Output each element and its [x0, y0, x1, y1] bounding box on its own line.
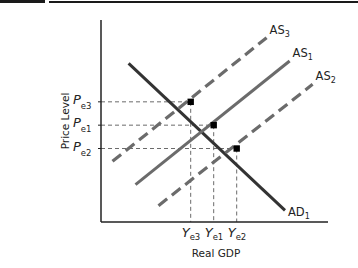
curve-label-as3: AS3	[270, 23, 290, 39]
equilibrium-point-e1	[211, 122, 217, 128]
curve-label-as1: AS1	[293, 46, 313, 62]
equilibrium-point-e2	[234, 145, 240, 151]
x-axis-title: Real GDP	[192, 247, 241, 259]
y-tick-label-e3: Pe3	[73, 92, 91, 111]
x-tick-label-e2: Ye2	[228, 225, 247, 242]
curve-label-as2: AS2	[316, 69, 336, 85]
x-tick-label-e1: Ye1	[205, 225, 224, 242]
y-axis-title: Price Level	[59, 93, 71, 150]
x-tick-label-e3: Ye3	[182, 225, 201, 242]
equilibrium-point-e3	[188, 99, 194, 105]
y-tick-label-e2: Pe2	[73, 139, 91, 158]
y-tick-label-e1: Pe1	[73, 115, 91, 134]
curve-label-ad: AD1	[288, 205, 310, 221]
as-ad-diagram: AD1AS3AS1AS2Pe3Ye3Pe1Ye1Pe2Ye2 Price Lev…	[0, 0, 358, 268]
